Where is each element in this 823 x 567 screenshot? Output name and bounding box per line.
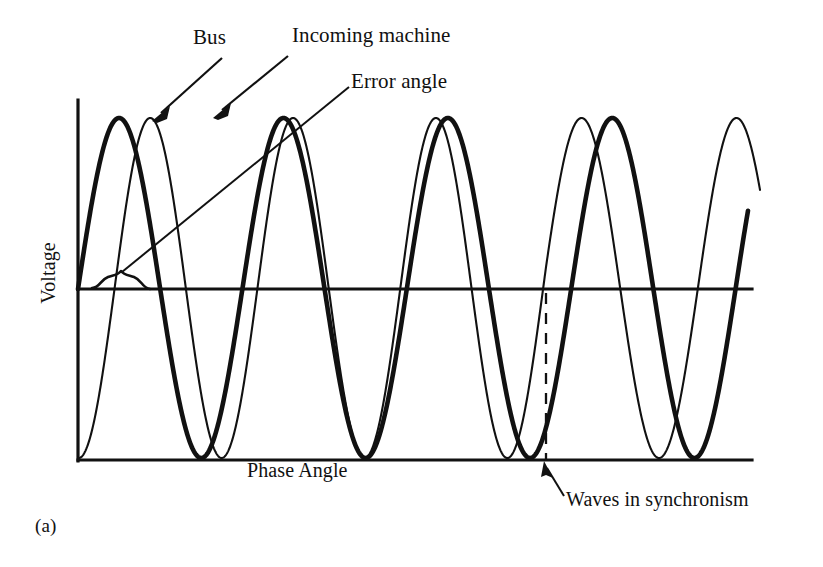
error-angle-leader-line: [122, 87, 349, 272]
figure-caption: (a): [35, 516, 56, 535]
x-axis-label: Phase Angle: [247, 460, 348, 480]
figure-container: Bus Incoming machine Error angle Waves i…: [0, 0, 823, 567]
bus-arrowhead: [152, 106, 170, 123]
incoming-arrowhead: [213, 103, 231, 120]
y-axis-label: Voltage: [38, 218, 58, 328]
synchronism-arrowhead: [541, 461, 553, 478]
bus-label: Bus: [193, 27, 226, 48]
error-angle-brace: [92, 271, 150, 289]
incoming-machine-label: Incoming machine: [292, 25, 450, 46]
waves-in-synchronism-label: Waves in synchronism: [566, 489, 749, 509]
error-angle-label: Error angle: [351, 71, 447, 92]
incoming-leader-line: [222, 56, 288, 110]
bus-leader-line: [161, 58, 222, 113]
